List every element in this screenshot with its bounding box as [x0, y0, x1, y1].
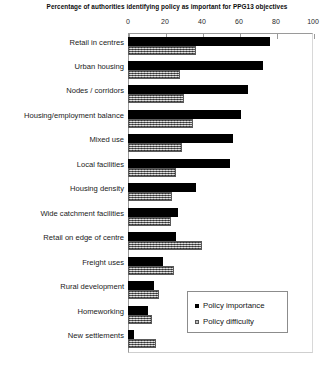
x-tick-label-40: 40: [198, 18, 206, 25]
bar-policy-difficulty: [128, 119, 193, 128]
bar-policy-importance: [128, 257, 163, 266]
bar-policy-importance: [128, 232, 176, 241]
bar-policy-importance: [128, 134, 233, 143]
bar-policy-difficulty: [128, 266, 174, 275]
bar-policy-importance: [128, 281, 154, 290]
bar-policy-difficulty: [128, 192, 172, 201]
category-axis-labels: Retail in centresUrban housingNodes / co…: [0, 34, 124, 352]
x-tick-label-100: 100: [307, 18, 319, 25]
bar-policy-difficulty: [128, 143, 182, 152]
bar-policy-importance: [128, 110, 241, 119]
chart-legend: Policy importance Policy difficulty: [187, 291, 288, 333]
bar-policy-importance: [128, 159, 230, 168]
bar-policy-importance: [128, 183, 196, 192]
legend-entry-policy-importance: Policy importance: [195, 301, 265, 310]
chart-title: Percentage of authorities identifying po…: [0, 3, 334, 10]
bar-policy-difficulty: [128, 168, 176, 177]
x-tick-label-60: 60: [235, 18, 243, 25]
x-tick-label-0: 0: [126, 18, 130, 25]
x-tick-label-20: 20: [161, 18, 169, 25]
bar-policy-difficulty: [128, 46, 196, 55]
legend-swatch-icon: [195, 304, 199, 308]
bar-policy-difficulty: [128, 94, 184, 103]
bar-chart: Percentage of authorities identifying po…: [0, 0, 334, 370]
legend-label: Policy importance: [203, 301, 265, 310]
bar-policy-importance: [128, 61, 263, 70]
category-label: Homeworking: [0, 307, 124, 316]
category-label: Housing/employment balance: [0, 111, 124, 120]
bar-policy-difficulty: [128, 70, 180, 79]
category-label: Nodes / corridors: [0, 86, 124, 95]
bar-policy-importance: [128, 208, 178, 217]
bar-policy-importance: [128, 330, 134, 339]
category-label: New settlements: [0, 331, 124, 340]
bar-policy-importance: [128, 85, 248, 94]
category-label: Urban housing: [0, 62, 124, 71]
category-label: Retail on edge of centre: [0, 233, 124, 242]
category-label: Local facilities: [0, 160, 124, 169]
legend-entry-policy-difficulty: Policy difficulty: [195, 317, 254, 326]
legend-swatch-icon: [195, 320, 199, 324]
bar-policy-difficulty: [128, 290, 159, 299]
bar-policy-difficulty: [128, 217, 171, 226]
category-label: Rural development: [0, 282, 124, 291]
legend-label: Policy difficulty: [203, 317, 254, 326]
bar-policy-importance: [128, 306, 148, 315]
x-tick-label-80: 80: [272, 18, 280, 25]
category-label: Freight uses: [0, 258, 124, 267]
category-label: Wide catchment facilities: [0, 209, 124, 218]
category-label: Mixed use: [0, 135, 124, 144]
bar-policy-difficulty: [128, 339, 156, 348]
x-tick-mark-100: [314, 34, 315, 39]
bar-policy-importance: [128, 37, 270, 46]
bar-policy-difficulty: [128, 315, 152, 324]
category-label: Retail in centres: [0, 38, 124, 47]
category-label: Housing density: [0, 184, 124, 193]
bar-policy-difficulty: [128, 241, 202, 250]
x-axis-tick-labels: 020406080100: [0, 18, 334, 30]
